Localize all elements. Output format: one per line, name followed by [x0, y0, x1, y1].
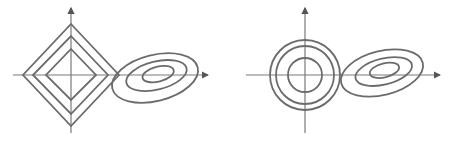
loss-ellipses	[107, 45, 204, 111]
ellipse-outer	[107, 45, 204, 111]
l1-panel	[13, 8, 208, 133]
regularization-diagram	[0, 0, 453, 142]
loss-ellipses	[336, 41, 428, 104]
l2-panel	[246, 8, 440, 133]
ellipse-inner	[141, 63, 176, 85]
ellipse-inner	[368, 60, 400, 81]
ellipse-outer	[336, 41, 428, 104]
